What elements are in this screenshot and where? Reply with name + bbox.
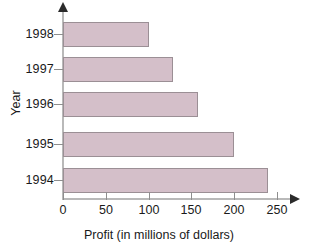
y-tick-1998 <box>54 34 63 35</box>
y-tick-label-1994: 1994 <box>2 173 54 187</box>
bar-1994 <box>63 168 268 193</box>
bar-chart: 1998 1997 1996 1995 1994 0 50 100 150 20… <box>0 0 318 249</box>
x-tick-label-250: 250 <box>257 203 297 217</box>
x-tick-50 <box>106 192 107 200</box>
x-tick-0 <box>63 192 64 200</box>
x-tick-150 <box>191 192 192 200</box>
x-tick-200 <box>234 192 235 200</box>
y-tick-label-1998: 1998 <box>2 27 54 41</box>
x-tick-label-200: 200 <box>214 203 254 217</box>
y-tick-1995 <box>54 144 63 145</box>
bar-1997 <box>63 57 173 82</box>
x-axis-title: Profit (in millions of dollars) <box>0 228 318 242</box>
x-tick-label-50: 50 <box>86 203 126 217</box>
y-tick-1994 <box>54 180 63 181</box>
y-tick-1996 <box>54 104 63 105</box>
y-axis-arrow-icon <box>58 2 68 12</box>
x-axis-line <box>62 198 292 200</box>
y-axis-title: Year <box>9 73 23 133</box>
bar-1995 <box>63 132 234 157</box>
x-tick-250 <box>277 192 278 200</box>
x-tick-label-100: 100 <box>129 203 169 217</box>
x-tick-label-0: 0 <box>43 203 83 217</box>
x-tick-100 <box>149 192 150 200</box>
bar-1998 <box>63 22 149 47</box>
bar-1996 <box>63 92 198 117</box>
y-tick-1997 <box>54 69 63 70</box>
y-tick-label-1995: 1995 <box>2 137 54 151</box>
x-tick-label-150: 150 <box>171 203 211 217</box>
